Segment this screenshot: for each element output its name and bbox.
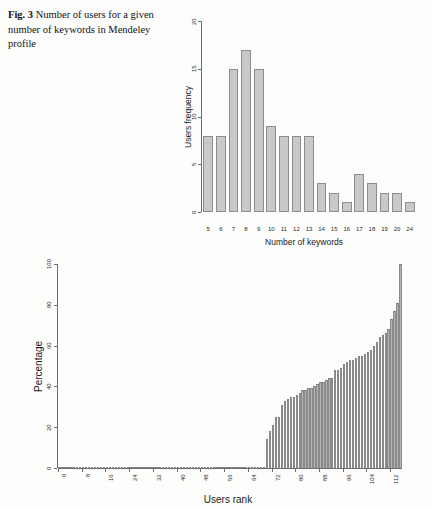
chart1-x-tick-label: 9 (252, 226, 265, 232)
chart1-bar (279, 136, 289, 212)
chart2-x-tick-label: 32 (156, 474, 162, 481)
chart2-y-tick-label: 40 (46, 383, 52, 390)
chart-keyword-frequency: Users frequency Number of keywords 56789… (178, 12, 430, 242)
chart2-x-tick (248, 468, 249, 472)
chart1-y-tick-label: 5 (191, 162, 197, 165)
chart2-x-axis-line (58, 468, 402, 469)
chart1-bar (266, 126, 276, 212)
figure-number: Fig. 3 (8, 9, 33, 20)
chart1-bar (292, 136, 302, 212)
chart1-x-tick-label: 6 (215, 226, 228, 232)
chart1-bar (392, 193, 402, 212)
chart1-bar (367, 183, 377, 212)
chart1-x-tick-label: 17 (353, 226, 366, 232)
figure-page: Fig. 3 Number of users for a given numbe… (0, 0, 432, 508)
chart2-x-tick (105, 468, 106, 472)
chart1-x-tick-label: 15 (328, 226, 341, 232)
chart1-bar (317, 183, 327, 212)
chart2-x-tick-label: 72 (275, 474, 281, 481)
chart1-bar (254, 69, 264, 212)
chart1-y-tick (198, 212, 201, 213)
chart2-x-tick-label: 0 (61, 474, 67, 477)
chart1-bar (241, 50, 251, 212)
chart2-y-tick-label: 0 (46, 466, 52, 469)
chart2-x-tick-label: 24 (132, 474, 138, 481)
chart2-x-tick (58, 468, 59, 472)
chart1-bar (229, 69, 239, 212)
chart2-x-tick (390, 468, 391, 472)
chart1-bar (405, 202, 415, 212)
chart1-bar (203, 136, 213, 212)
chart2-y-tick (54, 468, 58, 469)
chart1-y-tick (198, 69, 201, 70)
chart2-x-tick (129, 468, 130, 472)
chart2-y-tick (54, 264, 58, 265)
chart2-x-tick-label: 104 (369, 474, 375, 484)
figure-caption: Fig. 3 Number of users for a given numbe… (8, 8, 168, 52)
chart1-bar (216, 136, 226, 212)
chart1-y-tick (198, 21, 201, 22)
chart1-bar (304, 136, 314, 212)
chart2-x-tick-label: 40 (180, 474, 186, 481)
chart1-y-tick (198, 164, 201, 165)
chart1-x-tick-label: 24 (403, 226, 416, 232)
chart2-x-axis-title: Users rank (24, 494, 432, 505)
chart1-x-axis-title: Number of keywords (178, 237, 430, 247)
chart1-x-tick-label: 18 (366, 226, 379, 232)
chart1-bar (329, 193, 339, 212)
chart1-x-tick-label: 12 (290, 226, 303, 232)
chart2-x-tick-label: 56 (227, 474, 233, 481)
chart-users-rank-percentage: Percentage Users rank 020406080100081624… (24, 258, 432, 508)
chart1-x-tick-label: 10 (265, 226, 278, 232)
chart2-y-tick-label: 80 (46, 302, 52, 309)
chart2-x-tick (200, 468, 201, 472)
chart2-x-tick (272, 468, 273, 472)
chart2-x-tick (224, 468, 225, 472)
chart2-x-tick (295, 468, 296, 472)
chart1-x-tick-label: 7 (227, 226, 240, 232)
chart1-y-tick-label: 0 (191, 210, 197, 213)
chart2-y-axis-title: Percentage (33, 340, 44, 391)
chart1-bar (342, 202, 352, 212)
chart2-x-tick (343, 468, 344, 472)
chart2-x-tick (319, 468, 320, 472)
chart2-x-tick-label: 112 (393, 474, 399, 484)
chart1-y-tick-label: 20 (191, 18, 197, 25)
chart1-y-tick-label: 15 (191, 66, 197, 73)
chart1-x-tick-label: 13 (303, 226, 316, 232)
chart1-x-tick-label: 11 (278, 226, 291, 232)
chart1-y-tick (198, 117, 201, 118)
chart1-bar (380, 193, 390, 212)
chart2-x-tick (82, 468, 83, 472)
chart2-y-tick (54, 346, 58, 347)
chart2-y-tick (54, 305, 58, 306)
chart2-x-tick-label: 88 (322, 474, 328, 481)
chart2-y-tick (54, 427, 58, 428)
chart1-x-tick-label: 20 (391, 226, 404, 232)
chart2-x-tick-label: 64 (251, 474, 257, 481)
chart1-y-tick-label: 10 (191, 113, 197, 120)
chart1-x-tick-label: 16 (340, 226, 353, 232)
chart2-x-tick-label: 96 (346, 474, 352, 481)
chart2-y-tick-label: 60 (46, 342, 52, 349)
chart2-x-tick-label: 80 (298, 474, 304, 481)
chart2-x-tick-label: 8 (85, 474, 91, 477)
chart1-x-tick-label: 5 (202, 226, 215, 232)
chart2-bar (399, 264, 401, 468)
chart1-x-tick-label: 8 (240, 226, 253, 232)
chart2-y-tick-label: 20 (46, 424, 52, 431)
chart2-y-tick (54, 386, 58, 387)
chart1-x-tick-label: 14 (315, 226, 328, 232)
chart2-x-tick (366, 468, 367, 472)
chart1-x-tick-label: 19 (378, 226, 391, 232)
chart2-y-tick-label: 100 (46, 259, 52, 269)
chart2-x-tick-label: 16 (108, 474, 114, 481)
chart2-x-tick-label: 48 (203, 474, 209, 481)
chart2-x-tick (177, 468, 178, 472)
chart2-x-tick (153, 468, 154, 472)
chart1-bar (354, 174, 364, 212)
